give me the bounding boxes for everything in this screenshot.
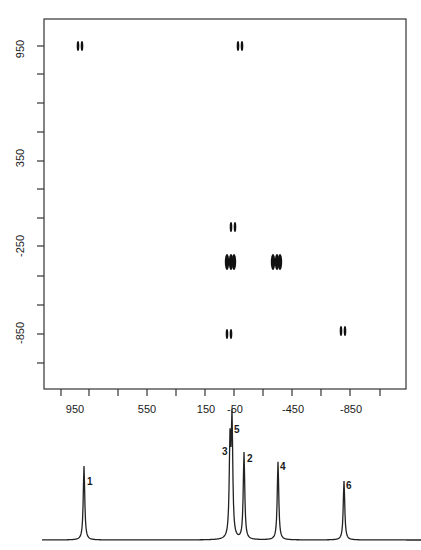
y-tick-label: 350: [14, 138, 26, 178]
1d-spectrum-trace: [42, 409, 421, 540]
2d-nmr-spectrum: [0, 0, 421, 550]
peak-label: 6: [346, 480, 352, 491]
x-tick-label: -450: [282, 403, 304, 415]
cross-peaks: [77, 41, 347, 339]
x-tick-label: 550: [138, 403, 156, 415]
plot-frame: [44, 19, 406, 389]
x-tick-label: 950: [66, 403, 84, 415]
x-tick-label: -50: [227, 403, 243, 415]
axis-ticks: [37, 46, 380, 396]
peak-label: 4: [280, 461, 286, 472]
peak-label: 1: [87, 476, 93, 487]
peak-label: 2: [247, 453, 253, 464]
x-tick-label: 150: [197, 403, 215, 415]
y-tick-label: -850: [14, 313, 26, 353]
y-tick-label: -250: [14, 226, 26, 266]
peak-label: 5: [234, 424, 240, 435]
x-tick-label: -850: [340, 403, 362, 415]
peak-label: 3: [222, 446, 228, 457]
y-tick-label: 950: [14, 29, 26, 69]
